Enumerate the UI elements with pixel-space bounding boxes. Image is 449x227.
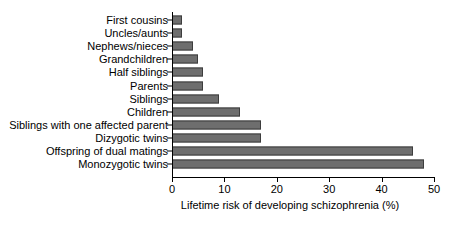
category-label: Grandchildren xyxy=(99,54,168,65)
category-label: First cousins xyxy=(106,15,168,26)
bar xyxy=(172,107,240,116)
x-axis-title: Lifetime risk of developing schizophreni… xyxy=(0,199,449,211)
x-axis-tick xyxy=(382,178,383,182)
bar-row: Siblings with one affected parent xyxy=(0,118,449,131)
category-label: Siblings xyxy=(129,93,168,104)
plot-area: First cousinsUncles/auntsNephews/niecesG… xyxy=(0,0,449,227)
bar-row: Children xyxy=(0,105,449,118)
bar xyxy=(172,147,413,156)
bar-row: Grandchildren xyxy=(0,53,449,66)
x-axis-tick xyxy=(224,178,225,182)
bar-row: Siblings xyxy=(0,92,449,105)
category-label: Offspring of dual matings xyxy=(46,146,168,157)
category-label: Children xyxy=(127,106,168,117)
x-axis-tick-label: 20 xyxy=(271,184,283,195)
bar-row: Parents xyxy=(0,79,449,92)
bar xyxy=(172,16,182,25)
bar xyxy=(172,120,261,129)
bar xyxy=(172,133,261,142)
x-axis-tick-label: 10 xyxy=(218,184,230,195)
x-axis-tick-label: 40 xyxy=(375,184,387,195)
bar xyxy=(172,81,203,90)
x-axis-tick xyxy=(277,178,278,182)
bar-row: Nephews/nieces xyxy=(0,40,449,53)
x-axis-tick-label: 50 xyxy=(428,184,440,195)
bar-chart-figure: First cousinsUncles/auntsNephews/niecesG… xyxy=(0,0,449,227)
category-label: Dizygotic twins xyxy=(95,132,168,143)
category-label: Monozygotic twins xyxy=(78,159,168,170)
category-label: Uncles/aunts xyxy=(104,28,168,39)
category-label: Nephews/nieces xyxy=(87,41,168,52)
bar-row: Dizygotic twins xyxy=(0,131,449,144)
bar xyxy=(172,94,219,103)
y-axis-line xyxy=(172,12,173,178)
x-axis-tick xyxy=(329,178,330,182)
bar-row: First cousins xyxy=(0,14,449,27)
x-axis-title-text: Lifetime risk of developing schizophreni… xyxy=(181,199,399,211)
category-label: Siblings with one affected parent xyxy=(9,119,168,130)
x-axis-tick xyxy=(172,178,173,182)
bar-row: Monozygotic twins xyxy=(0,158,449,171)
bar xyxy=(172,42,193,51)
bar xyxy=(172,29,182,38)
bar-row: Uncles/aunts xyxy=(0,27,449,40)
category-label: Half siblings xyxy=(109,67,168,78)
bar xyxy=(172,160,424,169)
x-axis-tick-label: 0 xyxy=(169,184,175,195)
category-label: Parents xyxy=(130,80,168,91)
bar-row: Offspring of dual matings xyxy=(0,145,449,158)
x-axis-tick xyxy=(434,178,435,182)
x-axis-tick-label: 30 xyxy=(323,184,335,195)
bar-row: Half siblings xyxy=(0,66,449,79)
bar xyxy=(172,55,198,64)
bar xyxy=(172,68,203,77)
x-axis-line xyxy=(172,177,435,178)
